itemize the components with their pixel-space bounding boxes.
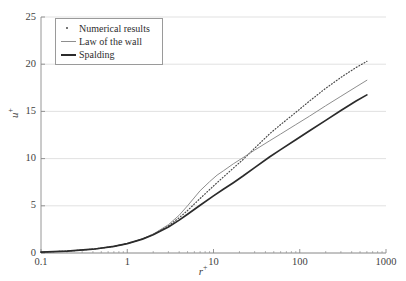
- legend-label: Law of the wall: [79, 35, 142, 48]
- y-axis-label-base: u: [8, 113, 20, 119]
- data-series-layer: [41, 61, 367, 252]
- legend-label: Spalding: [79, 48, 115, 61]
- legend: Numerical results Law of the wall Spaldi…: [55, 18, 163, 65]
- legend-item-spalding: Spalding: [59, 48, 158, 61]
- dot-marker-icon: [59, 22, 79, 35]
- legend-item-numerical-results: Numerical results: [59, 22, 158, 35]
- legend-item-law-of-the-wall: Law of the wall: [59, 35, 158, 48]
- y-tick-label: 10: [8, 152, 36, 163]
- y-tick-label: 20: [8, 58, 36, 69]
- thin-line-icon: [59, 35, 79, 48]
- y-axis-label-superscript: +: [6, 108, 15, 112]
- y-axis-label: u+: [6, 108, 20, 118]
- y-tick-label: 5: [8, 199, 36, 210]
- legend-label: Numerical results: [79, 22, 150, 35]
- x-axis-label: r+: [0, 263, 406, 277]
- x-axis-label-superscript: +: [203, 263, 207, 272]
- figure: 0510152025 0.11101001000 u+ r+ Numerical…: [0, 0, 406, 281]
- thick-line-icon: [59, 48, 79, 61]
- y-tick-label: 25: [8, 11, 36, 22]
